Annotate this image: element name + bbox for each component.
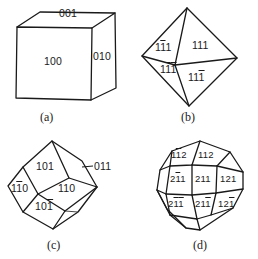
caption-a: (a) [40,111,53,123]
face-label-1-bar1-2: 112 [171,150,187,160]
caption-b: (b) [181,111,195,123]
octahedron-drawing [142,8,237,106]
face-label-12-bar1: 121 [218,199,234,209]
face-label-2-bar1-1: 211 [170,174,186,184]
face-label-100: 100 [44,56,62,67]
crystal-drawings [0,0,258,259]
face-label-2-bar1-bar1: 211 [168,199,184,209]
face-label-211: 211 [195,174,211,184]
face-label-1-bar1-0: 110 [11,183,28,194]
face-label-011: 011 [94,161,111,172]
face-label-11-bar1: 111 [188,72,205,83]
face-label-112: 112 [198,150,214,160]
face-label-010: 010 [93,51,111,62]
face-label-111: 111 [192,40,209,51]
face-label-001: 001 [59,8,77,19]
face-label-121: 121 [220,174,236,184]
caption-c: (c) [47,239,60,251]
caption-d: (d) [193,239,207,251]
face-label-110: 110 [58,183,75,194]
face-label-21-bar1: 211 [195,199,211,209]
face-label-1-bar1-1: 111 [155,42,172,53]
face-label-1-bar1-bar1: 111 [160,64,177,75]
face-label-10-bar1: 101 [35,201,53,212]
face-label-101: 101 [36,161,54,172]
crystal-forms-figure: 001 100 010 111 111 111 111 101 011 110 … [0,0,258,259]
